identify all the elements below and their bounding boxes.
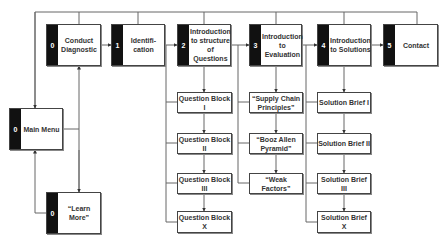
solution-brief-3: Solution Brief III [317,173,371,194]
eval-booz-allen: “Booz Allen Pyramid” [249,133,303,154]
question-block-2: Question Block II [177,133,232,154]
node-label: “Learn More” [58,204,100,222]
node-label: Main Menu [21,125,62,134]
node-label: Introduction to structure of Questions [189,27,232,63]
step-number: 0 [47,25,58,65]
node-label: Introduction to Solutions [329,36,372,54]
question-block-3: Question Block III [177,173,232,194]
node-label: Contact [395,41,437,50]
solution-brief-x: Solution Brief X [317,211,371,233]
node-intro-evaluation: 3 Introduction to Evaluation [249,24,302,66]
eval-supply-chain: “Supply Chain Principles” [249,92,303,113]
step-number: 1 [112,25,123,65]
step-number: 0 [47,193,58,233]
step-number: 0 [10,109,21,149]
step-number: 5 [384,25,395,65]
node-identification: 1 Identifi-cation [111,24,165,66]
node-main-menu: 0 Main Menu [9,108,63,150]
question-block-x: Question Block X [177,211,232,233]
node-conduct-diagnostic: 0 Conduct Diagnostic [46,24,101,66]
step-number: 4 [318,25,329,65]
node-intro-questions: 2 Introduction to structure of Questions [177,24,231,66]
question-block-1: Question Block I [177,92,232,113]
node-label: Conduct Diagnostic [58,36,100,54]
node-label: Introduction to Evaluation [261,32,304,59]
node-contact: 5 Contact [383,24,438,66]
node-label: Identifi-cation [123,36,164,54]
eval-weak-factors: “Weak Factors” [249,173,303,194]
solution-brief-2: Solution Brief II [317,133,371,154]
node-intro-solutions: 4 Introduction to Solutions [317,24,371,66]
step-number: 3 [250,25,261,65]
node-learn-more: 0 “Learn More” [46,192,101,234]
step-number: 2 [178,25,189,65]
solution-brief-1: Solution Brief I [317,92,371,113]
